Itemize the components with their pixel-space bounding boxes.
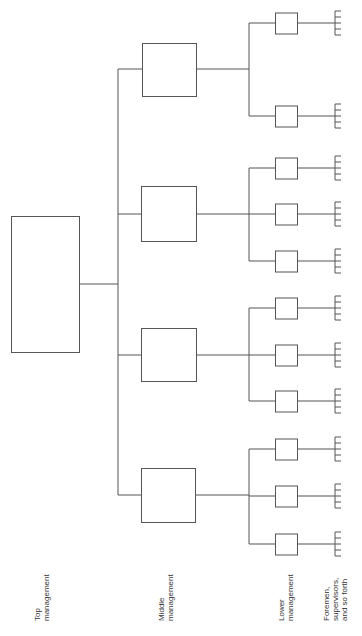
label-line: Top xyxy=(33,574,42,621)
lower-management-box xyxy=(276,106,298,127)
label-line: supervisors, xyxy=(331,578,340,621)
label-line: and so forth xyxy=(340,578,349,621)
label-lower-management: Lower management xyxy=(277,574,295,621)
top-management-box xyxy=(12,217,80,353)
lower-management-box xyxy=(276,534,298,555)
lower-management-box xyxy=(276,345,298,366)
lower-management-box xyxy=(276,391,298,412)
label-top-management: Top management xyxy=(33,574,51,621)
lower-management-box xyxy=(276,158,298,179)
lower-management-box xyxy=(276,13,298,34)
label-line: Foremen, xyxy=(322,578,331,621)
middle-management-box xyxy=(142,187,197,242)
lower-management-box xyxy=(276,439,298,460)
middle-management-box xyxy=(142,469,196,523)
middle-management-box xyxy=(143,44,197,97)
middle-management-box xyxy=(142,329,197,382)
label-foremen-supervisors: Foremen, supervisors, and so forth xyxy=(322,578,349,621)
org-chart xyxy=(0,0,362,636)
label-line: management xyxy=(286,574,295,621)
lower-management-box xyxy=(276,204,298,225)
label-middle-management: Middle management xyxy=(157,574,175,621)
label-line: management xyxy=(166,574,175,621)
lower-management-box xyxy=(276,298,298,319)
label-line: management xyxy=(42,574,51,621)
label-line: Middle xyxy=(157,574,166,621)
lower-management-box xyxy=(276,486,298,507)
lower-management-box xyxy=(276,251,298,272)
label-line: Lower xyxy=(277,574,286,621)
